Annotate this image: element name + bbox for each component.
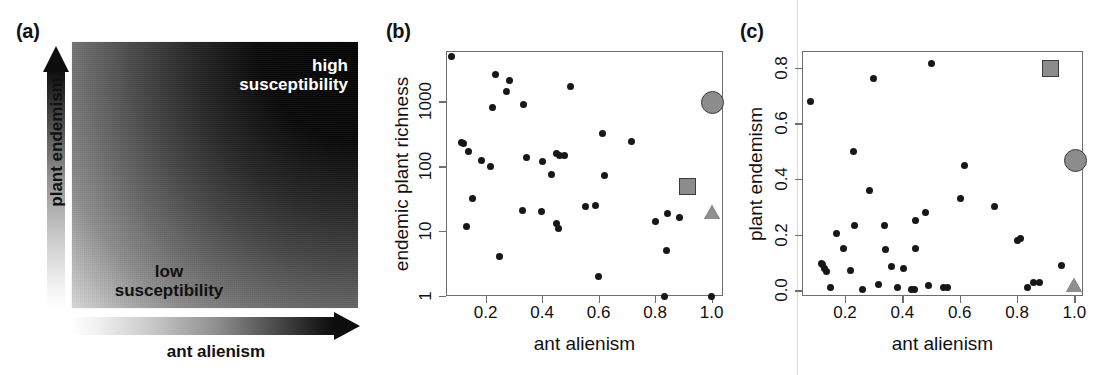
- data-point-c-islands-3: [850, 148, 857, 155]
- data-point-b-islands-22: [519, 207, 526, 214]
- data-point-b-islands-31: [555, 225, 562, 232]
- panel-b-label: (b): [386, 20, 411, 43]
- data-point-b-islands-17: [599, 130, 606, 137]
- y-tick-label-b-2: 100: [416, 152, 436, 180]
- high-susceptibility-line2: susceptibility: [239, 75, 348, 94]
- y-tick-label-c-1: 0.2: [772, 223, 792, 247]
- low-susceptibility-label: low susceptibility: [84, 262, 254, 300]
- x-tick-label-b-2: 0.6: [587, 303, 611, 323]
- x-axis-title-b: ant alienism: [534, 333, 635, 355]
- data-point-b-islands-4: [489, 104, 496, 111]
- data-point-b-islands-27: [652, 218, 659, 225]
- data-point-b-islands-34: [595, 273, 602, 280]
- x-tick-c-3: [1017, 296, 1018, 303]
- data-point-b-islands-8: [460, 140, 467, 147]
- data-point-b-islands-35: [661, 293, 668, 300]
- data-point-c-highlight-triangle-0: [1066, 278, 1082, 292]
- panel-c-scatter-chart: (c) ant alienismplant endemism0.20.40.60…: [730, 0, 1098, 375]
- data-point-c-islands-0: [807, 98, 814, 105]
- low-susceptibility-line2: susceptibility: [84, 281, 254, 300]
- y-axis-title-c: plant endemism: [745, 106, 767, 240]
- data-point-b-islands-1: [492, 71, 499, 78]
- ant-alienism-arrow-shaft: [72, 317, 334, 335]
- y-axis-title-b: endemic plant richness: [391, 76, 413, 270]
- panel-a-x-axis-label: ant alienism: [72, 342, 360, 362]
- data-point-c-highlight-circle-0: [1064, 149, 1087, 172]
- plant-endemism-arrow: plant endemism: [43, 46, 69, 308]
- data-point-c-islands-9: [912, 217, 919, 224]
- data-point-c-islands-2: [928, 60, 935, 67]
- x-tick-label-c-1: 0.4: [891, 303, 915, 323]
- x-axis-title-c: ant alienism: [892, 333, 993, 355]
- data-point-c-islands-21: [823, 268, 830, 275]
- x-tick-c-1: [902, 296, 903, 303]
- x-tick-b-3: [655, 296, 656, 303]
- y-tick-label-c-3: 0.6: [772, 112, 792, 136]
- y-tick-b-1: [439, 231, 446, 232]
- panel-a-label: (a): [16, 20, 40, 43]
- data-point-c-islands-37: [1036, 279, 1043, 286]
- x-tick-c-2: [960, 296, 961, 303]
- y-tick-c-3: [795, 123, 802, 124]
- data-point-c-islands-7: [991, 203, 998, 210]
- data-point-b-islands-9: [465, 148, 472, 155]
- data-point-b-islands-36: [708, 293, 715, 300]
- data-point-c-islands-6: [957, 195, 964, 202]
- y-tick-label-c-4: 0.8: [772, 56, 792, 80]
- x-tick-label-c-3: 0.8: [1005, 303, 1029, 323]
- data-point-c-islands-14: [840, 245, 847, 252]
- y-tick-label-b-0: 1: [416, 291, 436, 300]
- y-tick-b-3: [439, 101, 446, 102]
- data-point-c-highlight-square-0: [1042, 60, 1059, 77]
- x-tick-label-b-1: 0.4: [530, 303, 554, 323]
- high-susceptibility-line1: high: [239, 56, 348, 75]
- x-tick-c-4: [1074, 296, 1075, 303]
- data-point-b-islands-0: [448, 53, 455, 60]
- data-point-b-islands-10: [478, 157, 485, 164]
- x-tick-b-1: [542, 296, 543, 303]
- y-tick-c-0: [795, 290, 802, 291]
- y-tick-c-2: [795, 179, 802, 180]
- panel-b-scatter-chart: (b) ant alienismendemic plant richness0.…: [380, 0, 730, 375]
- data-point-c-islands-1: [870, 75, 877, 82]
- y-tick-c-1: [795, 235, 802, 236]
- data-point-c-islands-15: [882, 246, 889, 253]
- panel-a-conceptual-diagram: (a) high susceptibility low susceptibili…: [0, 0, 380, 375]
- data-point-c-islands-26: [827, 284, 834, 291]
- panel-c-label: (c): [740, 20, 764, 43]
- y-tick-label-b-1: 10: [416, 222, 436, 241]
- x-tick-b-2: [599, 296, 600, 303]
- data-point-b-islands-29: [463, 223, 470, 230]
- data-point-b-islands-26: [664, 210, 671, 217]
- high-susceptibility-label: high susceptibility: [239, 56, 348, 94]
- scan-seam-artifact: [797, 0, 798, 375]
- x-tick-label-b-4: 1.0: [700, 303, 724, 323]
- y-tick-label-c-0: 0.0: [772, 279, 792, 303]
- data-point-b-highlight-triangle-0: [704, 205, 720, 219]
- data-point-b-islands-11: [487, 163, 494, 170]
- x-tick-label-c-0: 0.2: [833, 303, 857, 323]
- x-tick-label-c-2: 0.6: [948, 303, 972, 323]
- x-tick-label-b-3: 0.8: [643, 303, 667, 323]
- data-point-b-islands-6: [567, 83, 574, 90]
- panel-a-y-axis-label: plant endemism: [47, 42, 67, 242]
- data-point-b-islands-13: [539, 158, 546, 165]
- data-point-b-islands-19: [548, 171, 555, 178]
- figure-root: (a) high susceptibility low susceptibili…: [0, 0, 1098, 375]
- x-tick-label-c-4: 1.0: [1063, 303, 1087, 323]
- ant-alienism-arrow: [72, 312, 360, 340]
- low-susceptibility-line1: low: [84, 262, 254, 281]
- x-tick-c-0: [845, 296, 846, 303]
- y-tick-b-0: [439, 296, 446, 297]
- x-tick-label-b-0: 0.2: [474, 303, 498, 323]
- data-point-c-islands-31: [911, 286, 918, 293]
- y-tick-label-c-2: 0.4: [772, 167, 792, 191]
- susceptibility-gradient-square: high susceptibility low susceptibility: [72, 42, 358, 308]
- data-point-b-highlight-circle-0: [701, 91, 724, 114]
- data-point-b-islands-24: [582, 203, 589, 210]
- data-point-b-highlight-square-0: [679, 178, 696, 195]
- y-tick-b-2: [439, 166, 446, 167]
- data-point-c-islands-10: [851, 222, 858, 229]
- y-tick-label-b-3: 1000: [416, 83, 436, 121]
- plot-area-c: [802, 51, 1083, 296]
